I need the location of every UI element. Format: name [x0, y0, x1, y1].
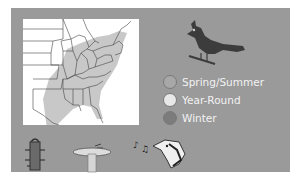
- svg-text:♪: ♪: [133, 140, 139, 150]
- legend-label: Year-Round: [182, 94, 241, 106]
- range-map: [23, 19, 139, 125]
- singing-bird-icon: ♪ ♫: [133, 134, 189, 174]
- legend-item-winter: Winter: [163, 109, 264, 127]
- legend-label: Spring/Summer: [182, 76, 264, 88]
- bird-bath-icon: [71, 142, 113, 178]
- winter-swatch-icon: [163, 111, 177, 125]
- cardinal-icon: [183, 20, 249, 72]
- range-legend: Spring/Summer Year-Round Winter: [163, 73, 264, 127]
- bird-feeder-icon: [23, 136, 47, 176]
- legend-label: Winter: [182, 112, 217, 124]
- year-round-swatch-icon: [163, 93, 177, 107]
- us-map-icon: [23, 19, 139, 125]
- legend-item-year-round: Year-Round: [163, 91, 264, 109]
- legend-item-spring-summer: Spring/Summer: [163, 73, 264, 91]
- svg-text:♫: ♫: [141, 144, 149, 154]
- species-info-panel: Spring/Summer Year-Round Winter: [11, 8, 290, 172]
- spring-summer-swatch-icon: [163, 75, 177, 89]
